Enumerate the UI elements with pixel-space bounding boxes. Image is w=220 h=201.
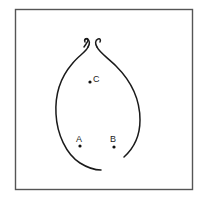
point-b: B (110, 134, 116, 149)
point-a-dot (78, 144, 81, 147)
point-b-dot (112, 145, 115, 148)
point-a-label: A (76, 134, 82, 144)
diagram-canvas: C A B (0, 0, 220, 201)
point-c-label: C (93, 74, 100, 84)
bulb-curve-left (56, 39, 101, 171)
point-b-label: B (110, 134, 116, 144)
point-a: A (76, 134, 82, 148)
neck-hook-right (96, 39, 101, 47)
point-c: C (88, 74, 100, 84)
diagram-frame (16, 10, 193, 190)
point-c-dot (88, 80, 91, 83)
bulb-curve-right (97, 47, 140, 157)
